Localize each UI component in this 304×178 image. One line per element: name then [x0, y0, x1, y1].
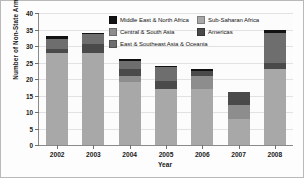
y-axis-tick-label: 15	[26, 92, 33, 99]
bar-segment	[228, 92, 250, 105]
bar-segment	[82, 44, 104, 52]
bar-segment	[119, 69, 141, 76]
y-axis-title: Number of Non-State Armed Conflicts	[12, 0, 19, 87]
legend-swatch-icon	[109, 16, 117, 24]
legend-swatch-icon	[109, 28, 117, 36]
y-axis-tick	[35, 46, 39, 47]
legend-item: Central & South Asia	[109, 28, 197, 36]
bar-2002	[46, 36, 68, 145]
bar-segment	[82, 34, 104, 44]
y-axis-tick	[35, 13, 39, 14]
bar-segment	[191, 89, 213, 145]
y-axis-tick-label: 5	[29, 125, 33, 132]
bar-segment	[228, 105, 250, 118]
y-axis-tick-label: 35	[26, 26, 33, 33]
x-axis-title: Year	[38, 161, 292, 168]
x-axis-tick-label: 2006	[195, 151, 210, 158]
bar-2003	[82, 33, 104, 145]
legend-label: East & Southeast Asia & Oceania	[120, 41, 208, 47]
x-axis-tick	[239, 145, 240, 149]
x-axis-tick	[275, 145, 276, 149]
bar-segment	[119, 82, 141, 145]
y-axis-tick	[35, 129, 39, 130]
bar-2006	[191, 69, 213, 145]
x-axis-tick	[166, 145, 167, 149]
y-axis-tick	[35, 30, 39, 31]
y-axis-tick-label: 30	[26, 43, 33, 50]
bar-2007	[228, 92, 250, 145]
legend-item: East & Southeast Asia & Oceania	[109, 40, 197, 48]
y-axis-tick	[35, 96, 39, 97]
legend-item: Americas	[197, 28, 295, 36]
bar-segment	[264, 63, 286, 70]
bar-segment	[119, 61, 141, 69]
bar-segment	[155, 67, 177, 80]
x-axis-tick-label: 2003	[86, 151, 101, 158]
y-axis-tick-label: 10	[26, 109, 33, 116]
bar-segment	[191, 76, 213, 89]
bar-segment	[46, 39, 68, 49]
legend-swatch-icon	[197, 28, 205, 36]
x-axis-tick	[130, 145, 131, 149]
y-axis-tick	[35, 79, 39, 80]
x-axis-tick-label: 2005	[159, 151, 174, 158]
bar-segment	[82, 53, 104, 145]
y-axis-tick	[35, 63, 39, 64]
y-axis-tick-label: 40	[26, 10, 33, 17]
legend-label: Central & South Asia	[120, 29, 174, 35]
legend-item: Middle East & North Africa	[109, 16, 197, 24]
legend-swatch-icon	[109, 40, 117, 48]
x-axis-tick-label: 2004	[122, 151, 137, 158]
x-axis-tick	[93, 145, 94, 149]
x-axis-tick	[57, 145, 58, 149]
x-axis-tick-label: 2008	[268, 151, 283, 158]
chart-legend: Middle East & North AfricaSub-Saharan Af…	[109, 14, 295, 50]
y-axis-tick-label: 20	[26, 76, 33, 83]
chart-figure: Number of Non-State Armed Conflicts 0510…	[0, 0, 304, 178]
x-axis-tick-label: 2007	[231, 151, 246, 158]
bar-segment	[46, 53, 68, 145]
bar-2005	[155, 66, 177, 145]
bar-segment	[155, 89, 177, 145]
y-axis-tick	[35, 145, 39, 146]
x-axis-tick-label: 2002	[50, 151, 65, 158]
bar-segment	[264, 69, 286, 145]
legend-swatch-icon	[197, 16, 205, 24]
legend-label: Sub-Saharan Africa	[208, 17, 259, 23]
y-axis-tick-label: 25	[26, 59, 33, 66]
bar-segment	[119, 76, 141, 83]
legend-label: Middle East & North Africa	[120, 17, 189, 23]
bar-segment	[228, 119, 250, 145]
x-axis-tick	[202, 145, 203, 149]
legend-item: Sub-Saharan Africa	[197, 16, 295, 24]
bar-2004	[119, 59, 141, 145]
y-axis-tick-label: 0	[29, 142, 33, 149]
gridline	[39, 63, 293, 64]
bar-segment	[155, 81, 177, 89]
y-axis-tick	[35, 112, 39, 113]
legend-label: Americas	[208, 29, 233, 35]
